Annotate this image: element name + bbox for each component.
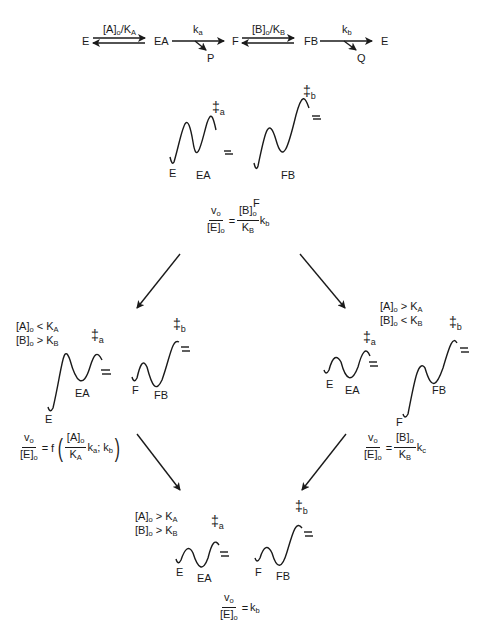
energy-curve-right-a [324, 351, 370, 378]
label-e: E [169, 167, 176, 179]
label-f: F [396, 416, 403, 428]
arrow-left-to-bottom [137, 434, 180, 490]
label-fb: FB [281, 169, 295, 181]
label-fb: FB [154, 389, 168, 401]
step1-label: [A]o/KA [103, 23, 136, 39]
label-f: F [132, 384, 139, 396]
condition-left-b: [B]o > KB [16, 334, 59, 350]
transition-state-b-icon: ‡b [303, 85, 316, 102]
step4-label: kb [342, 23, 352, 39]
energy-curve-right-b [403, 341, 457, 417]
product-q: Q [357, 52, 366, 64]
species-ea: EA [154, 35, 169, 47]
label-e: E [326, 378, 333, 390]
condition-bottom-b: [B]o > KB [135, 524, 178, 540]
energy-curve-bottom-b [255, 525, 302, 565]
arrow-top-to-left [137, 254, 180, 308]
energy-curve-top-a [170, 116, 216, 163]
label-e: E [45, 413, 52, 425]
rate-equation-bottom: vo[E]o = kb [218, 592, 260, 623]
species-e: E [82, 35, 89, 47]
rate-equation-right: vo[E]o = [B]oKB kc [362, 432, 426, 463]
product-p: P [207, 52, 214, 64]
label-e: E [176, 566, 183, 578]
species-fb: FB [304, 35, 318, 47]
label-fb: FB [276, 570, 290, 582]
condition-right-b: [B]o < KB [380, 314, 423, 330]
label-ea: EA [197, 572, 212, 584]
label-ea: EA [345, 384, 360, 396]
label-fb: FB [432, 384, 446, 396]
transition-state-b-icon: ‡b [173, 318, 186, 335]
reaction-arrow-ka [172, 41, 224, 50]
arrow-top-to-right [300, 254, 345, 308]
rate-equation-left: vo[E]o = f ( [A]oKA ka; kb ) [18, 432, 122, 463]
reaction-arrow-kb [320, 41, 372, 50]
transition-state-b-icon: ‡b [295, 500, 308, 517]
rate-equation-top: vo[E]o = [B]oKB kb [205, 205, 269, 236]
energy-curve-top-b [254, 99, 309, 169]
step2-label: ka [193, 23, 203, 39]
label-f: F [255, 566, 262, 578]
transition-state-a-icon: ‡a [91, 329, 104, 346]
species-e-regenerated: E [381, 35, 388, 47]
species-f: F [232, 35, 239, 47]
transition-state-a-icon: ‡a [211, 515, 224, 532]
label-ea: EA [196, 169, 211, 181]
transition-state-a-icon: ‡a [212, 101, 225, 118]
energy-curve-bottom-a [176, 542, 219, 567]
transition-state-b-icon: ‡b [449, 316, 462, 333]
energy-curve-left-b [132, 341, 179, 386]
transition-state-a-icon: ‡a [363, 331, 376, 348]
label-ea: EA [75, 387, 90, 399]
energy-curve-left-a [48, 354, 102, 411]
arrow-right-to-bottom [302, 434, 346, 490]
step3-label: [B]o/KB [252, 23, 285, 39]
